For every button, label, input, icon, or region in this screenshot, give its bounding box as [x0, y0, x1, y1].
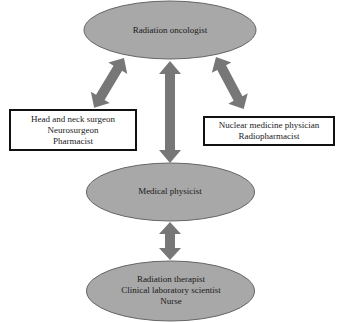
double-arrow-icon-top-left	[85, 52, 134, 113]
node-label: Nurse	[95, 296, 247, 307]
double-arrow-icon-top-right	[206, 52, 253, 114]
double-arrow-icon-top-middle	[159, 61, 181, 163]
box-surgeon-group: Head and neck surgeon Neurosurgeon Pharm…	[9, 109, 137, 151]
double-arrow-icon-middle-bottom	[159, 222, 181, 260]
node-label: Radiation therapist	[95, 274, 247, 285]
box-line: Head and neck surgeon	[31, 114, 115, 125]
box-nuclear-medicine-group: Nuclear medicine physician Radiopharmaci…	[203, 116, 335, 146]
box-line: Radiopharmacist	[239, 131, 300, 142]
box-line: Pharmacist	[53, 136, 93, 147]
box-line: Neurosurgeon	[48, 125, 99, 136]
node-medical-physicist: Medical physicist	[100, 186, 240, 197]
node-label: Radiation oncologist	[100, 25, 240, 36]
node-radiation-oncologist: Radiation oncologist	[100, 25, 240, 36]
node-radiation-therapist-group: Radiation therapist Clinical laboratory …	[95, 274, 247, 307]
box-line: Nuclear medicine physician	[219, 120, 319, 131]
node-label: Medical physicist	[100, 186, 240, 197]
node-label: Clinical laboratory scientist	[95, 285, 247, 296]
